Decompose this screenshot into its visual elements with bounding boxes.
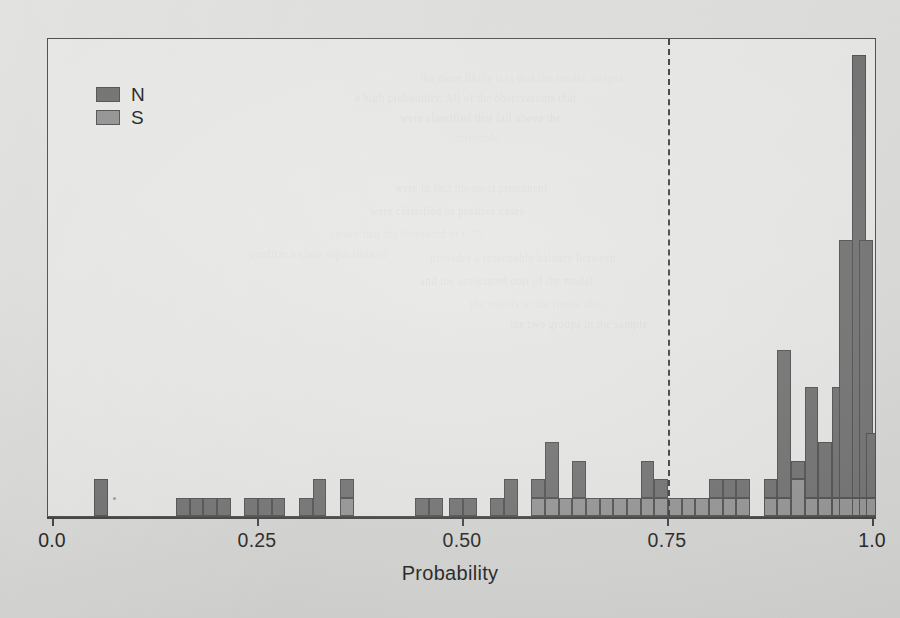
histogram-bar: [203, 498, 217, 516]
histogram-bar: [190, 498, 204, 516]
bar-segment-s: [818, 498, 832, 516]
histogram-bar: [777, 350, 791, 516]
bar-segment-s: [709, 498, 723, 516]
x-axis-tick: [257, 517, 259, 526]
bar-segment-n: [258, 498, 272, 516]
bar-segment-n: [217, 498, 231, 516]
legend-label-s: S: [131, 108, 144, 127]
bar-segment-n: [504, 479, 518, 516]
bar-segment-n: [736, 479, 750, 497]
legend-swatch-s-icon: [96, 110, 120, 125]
bar-segment-s: [777, 498, 791, 516]
bar-segment-n: [805, 387, 819, 498]
legend-label-n: N: [131, 85, 145, 104]
x-axis-tick-label: 0.50: [443, 529, 482, 552]
histogram-bar: [244, 498, 258, 516]
legend: N S: [96, 84, 145, 130]
bar-segment-n: [709, 479, 723, 497]
histogram-bar: [723, 479, 737, 516]
histogram-bar: [531, 479, 545, 516]
bar-segment-n: [244, 498, 258, 516]
histogram-bar: [764, 479, 778, 516]
histogram-bar: [429, 498, 443, 516]
bar-segment-s: [531, 498, 545, 516]
histogram-bar: [449, 498, 463, 516]
histogram-bar: [805, 387, 819, 516]
histogram-bar: [818, 442, 832, 516]
x-axis-tick-label: 0.0: [38, 529, 66, 552]
bar-segment-n: [449, 498, 463, 516]
plot-area: [48, 39, 875, 516]
histogram-bar: [572, 461, 586, 516]
bar-segment-n: [313, 479, 327, 516]
bar-segment-n: [429, 498, 443, 516]
bar-segment-n: [463, 498, 477, 516]
bar-segment-n: [94, 479, 108, 516]
x-axis-label: Probability: [0, 562, 900, 585]
histogram-bar: [415, 498, 429, 516]
histogram-bar: [272, 498, 286, 516]
bar-segment-n: [777, 350, 791, 497]
bar-segment-n: [641, 461, 655, 498]
bar-segment-n: [176, 498, 190, 516]
bar-segment-n: [531, 479, 545, 497]
histogram-bar: [791, 461, 805, 516]
x-axis-tick-label: 0.75: [648, 529, 687, 552]
legend-swatch-n-icon: [96, 87, 120, 102]
bar-segment-s: [668, 498, 682, 516]
histogram-bar: [463, 498, 477, 516]
scan-dust-speck: [113, 497, 116, 500]
bar-segment-s: [545, 498, 559, 516]
x-axis-tick: [462, 517, 464, 526]
bar-segment-n: [866, 433, 875, 497]
histogram-bar: [613, 498, 627, 516]
bar-segment-s: [866, 498, 875, 516]
bar-segment-s: [654, 498, 668, 516]
plot-frame: N S: [47, 38, 876, 517]
bar-segment-s: [572, 498, 586, 516]
bar-segment-s: [682, 498, 696, 516]
bar-segment-n: [654, 479, 668, 497]
bar-segment-s: [736, 498, 750, 516]
bar-segment-n: [839, 240, 853, 498]
histogram-bar: [559, 498, 573, 516]
x-axis-tick-label: 0.25: [238, 529, 277, 552]
bar-segment-s: [805, 498, 819, 516]
bar-segment-n: [272, 498, 286, 516]
bar-segment-s: [627, 498, 641, 516]
histogram-bar: [866, 433, 875, 516]
x-axis-tick-label: 1.0: [858, 529, 886, 552]
bar-segment-s: [340, 498, 354, 516]
bar-segment-n: [545, 442, 559, 497]
histogram-bar: [586, 498, 600, 516]
x-axis-tick: [52, 517, 54, 526]
bar-segment-s: [559, 498, 573, 516]
bar-segment-n: [764, 479, 778, 497]
histogram-bar: [94, 479, 108, 516]
histogram-bar: [627, 498, 641, 516]
bar-segment-n: [791, 461, 805, 479]
histogram-bar: [736, 479, 750, 516]
bar-segment-n: [415, 498, 429, 516]
histogram-bar: [258, 498, 272, 516]
bar-segment-n: [490, 498, 504, 516]
bar-segment-s: [695, 498, 709, 516]
bar-segment-n: [203, 498, 217, 516]
histogram-bar: [313, 479, 327, 516]
histogram-bar: [839, 240, 853, 516]
bar-segment-s: [613, 498, 627, 516]
bar-segment-s: [723, 498, 737, 516]
legend-item-n: N: [96, 84, 145, 104]
histogram-bar: [709, 479, 723, 516]
histogram-bar: [217, 498, 231, 516]
x-axis-tick: [667, 517, 669, 526]
bar-segment-s: [600, 498, 614, 516]
bar-segment-s: [586, 498, 600, 516]
histogram-bar: [176, 498, 190, 516]
histogram-bar: [695, 498, 709, 516]
histogram-bar: [504, 479, 518, 516]
bar-segment-n: [572, 461, 586, 498]
threshold-reference-line: [668, 39, 670, 516]
bar-segment-n: [190, 498, 204, 516]
histogram-bar: [600, 498, 614, 516]
